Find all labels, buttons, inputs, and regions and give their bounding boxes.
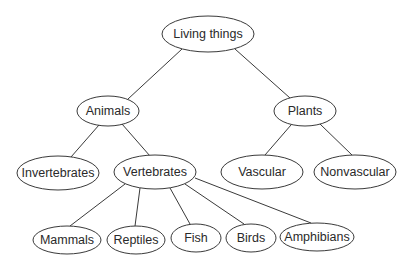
node-label: Mammals: [40, 233, 94, 247]
node-nonvascular: Nonvascular: [314, 155, 396, 189]
node-label: Fish: [184, 231, 208, 245]
node-label: Animals: [86, 104, 130, 118]
node-fish: Fish: [171, 224, 221, 252]
edge-plants-vascular: [265, 125, 291, 155]
edge-living-animals: [128, 49, 182, 99]
node-label: Birds: [237, 231, 265, 245]
node-invertebrates: Invertebrates: [17, 156, 99, 190]
node-amphibians: Amphibians: [280, 223, 354, 251]
node-label: Reptiles: [113, 233, 158, 247]
edge-animals-invertebrates: [71, 125, 99, 157]
node-label: Vascular: [238, 165, 286, 179]
node-label: Nonvascular: [320, 165, 389, 179]
node-animals: Animals: [77, 96, 139, 126]
edge-animals-vertebrates: [122, 124, 150, 156]
node-label: Vertebrates: [123, 165, 187, 179]
tree-edges: [70, 49, 352, 226]
node-label: Amphibians: [284, 230, 349, 244]
node-living: Living things: [162, 16, 254, 52]
node-mammals: Mammals: [33, 226, 101, 254]
edge-vertebrates-fish: [170, 188, 190, 224]
edge-vertebrates-mammals: [70, 184, 125, 226]
node-vascular: Vascular: [221, 155, 303, 189]
node-label: Living things: [173, 27, 243, 41]
edge-vertebrates-birds: [185, 184, 244, 224]
node-plants: Plants: [274, 96, 336, 126]
edge-living-plants: [235, 49, 290, 98]
edge-plants-nonvascular: [320, 124, 352, 155]
edge-vertebrates-reptiles: [135, 188, 140, 226]
tree-nodes: Living thingsAnimalsPlantsInvertebratesV…: [17, 16, 396, 254]
node-reptiles: Reptiles: [107, 226, 165, 254]
node-label: Invertebrates: [22, 166, 95, 180]
taxonomy-tree-diagram: Living thingsAnimalsPlantsInvertebratesV…: [0, 0, 419, 265]
node-birds: Birds: [226, 224, 276, 252]
node-vertebrates: Vertebrates: [114, 155, 196, 189]
node-label: Plants: [288, 104, 323, 118]
